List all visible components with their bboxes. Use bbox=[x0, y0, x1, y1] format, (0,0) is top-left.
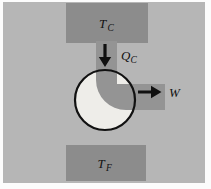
diagram-canvas: T C Q C W T F bbox=[0, 0, 211, 189]
hot-reservoir-label-subscript: C bbox=[108, 23, 115, 33]
hot-reservoir-label: T bbox=[99, 16, 107, 31]
work-out-label: W bbox=[169, 85, 181, 100]
cold-reservoir-label: T bbox=[98, 156, 106, 171]
cold-reservoir-label-subscript: F bbox=[105, 163, 112, 173]
heat-in-label: Q bbox=[121, 48, 131, 63]
heat-in-label-subscript: C bbox=[131, 55, 138, 65]
heat-engine-figure: T C Q C W T F bbox=[0, 0, 211, 189]
